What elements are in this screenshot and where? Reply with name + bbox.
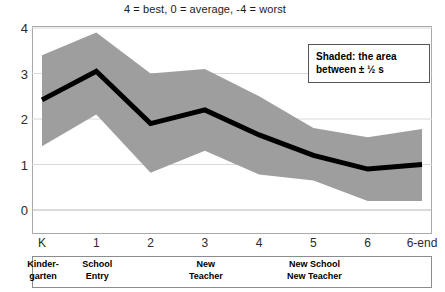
- legend-line-2: between ± ½ s: [316, 63, 422, 76]
- phase-item: NewTeacher: [189, 259, 223, 282]
- x-axis-tick-label: 6-end: [407, 236, 438, 250]
- legend-line-1: Shaded: the area: [316, 50, 422, 63]
- y-axis-tick-label: 3: [2, 66, 28, 81]
- x-axis-tick-label: 2: [147, 236, 154, 250]
- x-axis-tick-label: 6: [364, 236, 371, 250]
- phase-item: New SchoolNew Teacher: [287, 259, 342, 282]
- phase-item-line-1: School: [82, 259, 112, 271]
- phase-item-line-2: Entry: [82, 271, 112, 283]
- phase-item-line-1: New: [189, 259, 223, 271]
- phase-item-line-2: garten: [27, 271, 59, 283]
- x-axis-labels: K1234566-end: [32, 236, 432, 256]
- y-axis-tick-label: 0: [2, 203, 28, 218]
- phase-item-line-1: Kinder-: [27, 259, 59, 271]
- x-axis-tick-label: 1: [93, 236, 100, 250]
- phase-item-line-1: New School: [287, 259, 342, 271]
- x-axis-tick-label: 5: [310, 236, 317, 250]
- phase-item-line-2: Teacher: [189, 271, 223, 283]
- y-axis-tick-label: 4: [2, 21, 28, 36]
- chart-container: 4 = best, 0 = average, -4 = worst 43210 …: [0, 0, 445, 292]
- y-axis-tick-label: 1: [2, 157, 28, 172]
- x-axis-tick-label: 4: [256, 236, 263, 250]
- chart-title: 4 = best, 0 = average, -4 = worst: [60, 3, 350, 15]
- phase-annotation-bar: Kinder-gartenSchoolEntryNewTeacherNew Sc…: [32, 256, 432, 288]
- phase-item: Kinder-garten: [27, 259, 59, 282]
- y-axis-labels: 43210: [0, 0, 28, 292]
- phase-item: SchoolEntry: [82, 259, 112, 282]
- legend-box: Shaded: the area between ± ½ s: [308, 44, 430, 83]
- y-axis-tick-label: 2: [2, 112, 28, 127]
- phase-item-line-2: New Teacher: [287, 271, 342, 283]
- x-axis-tick-label: 3: [202, 236, 209, 250]
- x-axis-tick-label: K: [38, 236, 46, 250]
